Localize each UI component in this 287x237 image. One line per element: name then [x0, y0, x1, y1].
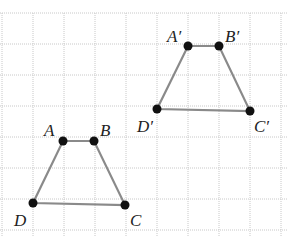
trapezoid-edges — [33, 141, 125, 205]
vertex-label: C — [130, 211, 142, 230]
vertex-label: D — [13, 211, 27, 230]
grid-diagram: ABCDA′B′C′D′ — [0, 0, 287, 237]
vertex-point — [29, 199, 38, 208]
vertex-point — [184, 42, 193, 51]
trapezoid-edges — [157, 46, 250, 111]
vertex-label: C′ — [254, 117, 269, 136]
vertex-point — [121, 201, 130, 210]
vertex-point — [59, 137, 68, 146]
vertex-label: D′ — [136, 117, 153, 136]
trapezoid-abcd: A′B′C′D′ — [136, 27, 269, 136]
vertex-point — [246, 107, 255, 116]
vertex-point — [90, 137, 99, 146]
vertex-point — [215, 42, 224, 51]
vertex-label: A′ — [166, 27, 181, 46]
trapezoids: ABCDA′B′C′D′ — [13, 27, 269, 230]
vertex-label: A — [43, 121, 55, 140]
vertex-point — [153, 105, 162, 114]
vertex-label: B′ — [225, 27, 239, 46]
vertex-label: B — [100, 121, 111, 140]
